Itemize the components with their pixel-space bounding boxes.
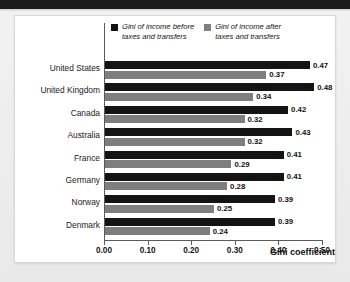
x-axis-title: Gini coefficient [270, 247, 335, 257]
bar-after [105, 227, 210, 235]
bar-after [105, 115, 245, 123]
x-tick-mark [278, 241, 279, 245]
bar-before [105, 218, 275, 226]
bar-value-label: 0.28 [230, 182, 245, 191]
bar-row: 0.37 [105, 71, 323, 79]
bar-before [105, 151, 284, 159]
bar-row: 0.47 [105, 61, 323, 69]
bar-value-label: 0.43 [295, 128, 310, 137]
x-tick-mark [322, 241, 323, 245]
x-tick-mark [191, 241, 192, 245]
bar-group: United Kingdom0.480.34 [105, 83, 323, 105]
bar-value-label: 0.41 [287, 150, 302, 159]
plot-area: United States0.470.37United Kingdom0.480… [104, 23, 323, 241]
bar-row: 0.34 [105, 93, 323, 101]
bar-after [105, 160, 231, 168]
bar-after [105, 138, 245, 146]
bar-group: Australia0.430.32 [105, 128, 323, 150]
bar-value-label: 0.24 [213, 227, 228, 236]
bar-after [105, 93, 253, 101]
category-label: Denmark [66, 220, 100, 230]
bar-group: Norway0.390.25 [105, 195, 323, 217]
bar-row: 0.32 [105, 115, 323, 123]
chart-panel: Gini of income before taxes and transfer… [14, 15, 336, 263]
bar-group: Denmark0.390.24 [105, 218, 323, 240]
bar-row: 0.25 [105, 205, 323, 213]
bar-value-label: 0.25 [217, 204, 232, 213]
category-label: United Kingdom [40, 85, 100, 95]
bar-row: 0.41 [105, 173, 323, 181]
bar-row: 0.28 [105, 182, 323, 190]
bar-value-label: 0.29 [234, 160, 249, 169]
category-label: France [74, 153, 100, 163]
bar-value-label: 0.32 [248, 115, 263, 124]
bar-after [105, 71, 266, 79]
bar-row: 0.39 [105, 195, 323, 203]
bar-row: 0.41 [105, 151, 323, 159]
top-band-shadow [0, 9, 350, 12]
bar-before [105, 173, 284, 181]
bar-before [105, 128, 292, 136]
top-decorative-band [0, 0, 350, 9]
x-tick-label: 0.10 [140, 246, 156, 255]
bar-row: 0.42 [105, 106, 323, 114]
bar-value-label: 0.47 [313, 61, 328, 70]
bar-group: United States0.470.37 [105, 61, 323, 83]
bar-after [105, 205, 214, 213]
x-tick-mark [148, 241, 149, 245]
x-tick-mark [104, 241, 105, 245]
x-tick-mark [235, 241, 236, 245]
bar-before [105, 83, 314, 91]
bar-before [105, 61, 310, 69]
category-label: United States [50, 63, 100, 73]
bar-value-label: 0.34 [256, 92, 271, 101]
bars-container: United States0.470.37United Kingdom0.480… [105, 61, 323, 240]
category-label: Germany [66, 175, 100, 185]
bar-group: Germany0.410.28 [105, 173, 323, 195]
category-label: Canada [71, 108, 100, 118]
bar-value-label: 0.32 [248, 137, 263, 146]
bar-value-label: 0.48 [317, 83, 332, 92]
bar-row: 0.48 [105, 83, 323, 91]
category-label: Australia [67, 130, 100, 140]
bar-row: 0.32 [105, 138, 323, 146]
bar-chart: Gini of income before taxes and transfer… [15, 16, 335, 262]
bar-value-label: 0.39 [278, 217, 293, 226]
bar-value-label: 0.39 [278, 195, 293, 204]
bar-after [105, 182, 227, 190]
bar-row: 0.43 [105, 128, 323, 136]
bar-row: 0.24 [105, 227, 323, 235]
bar-value-label: 0.42 [291, 105, 306, 114]
bar-row: 0.29 [105, 160, 323, 168]
bar-before [105, 106, 288, 114]
bar-row: 0.39 [105, 218, 323, 226]
bar-before [105, 195, 275, 203]
x-tick-label: 0.20 [183, 246, 199, 255]
category-label: Norway [72, 197, 100, 207]
bar-value-label: 0.41 [287, 172, 302, 181]
bar-group: Canada0.420.32 [105, 106, 323, 128]
bar-group: France0.410.29 [105, 151, 323, 173]
x-tick-label: 0.30 [227, 246, 243, 255]
page-root: Gini of income before taxes and transfer… [0, 0, 350, 282]
x-tick-label: 0.00 [96, 246, 112, 255]
bar-value-label: 0.37 [269, 70, 284, 79]
